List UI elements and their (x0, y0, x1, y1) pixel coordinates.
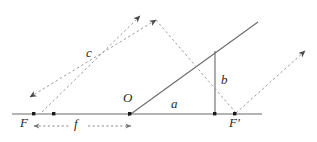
figure-canvas: F f c O a b F' (0, 0, 317, 142)
point-foot-of-b (213, 112, 216, 115)
label-focus-left: F (20, 116, 28, 129)
point-axis-second (52, 112, 55, 115)
label-origin: O (123, 91, 132, 104)
label-hypotenuse-c: c (86, 46, 92, 59)
label-focus-right: F' (229, 116, 240, 129)
ray-diagram-svg (0, 0, 317, 142)
label-side-b: b (221, 73, 228, 86)
label-side-a: a (171, 97, 178, 110)
dashed-ray-from-focus-right (236, 51, 305, 113)
dashed-line-vertex-to-focus-right (156, 20, 236, 113)
solid-ray-through-origin (128, 22, 258, 116)
label-focal-length: f (74, 117, 78, 130)
point-focus-left (32, 112, 35, 115)
point-origin (128, 112, 131, 115)
dashed-ray-c-outer (30, 20, 156, 97)
